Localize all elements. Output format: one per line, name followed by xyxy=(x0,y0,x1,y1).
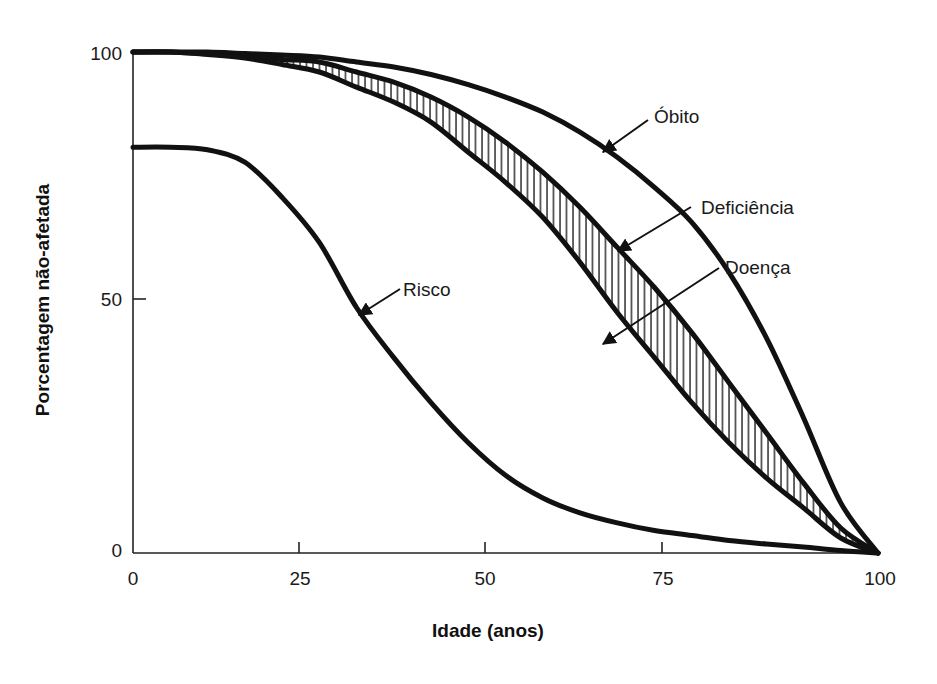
y-tick-label-50: 50 xyxy=(101,289,122,310)
y-tick-label-0: 0 xyxy=(111,540,122,561)
x-tick-label-25: 25 xyxy=(289,568,310,589)
curves xyxy=(133,52,878,553)
y-axis-title: Porcentagem não-afetada xyxy=(32,183,53,416)
label-deficiencia: Deficiência xyxy=(701,197,794,218)
x-tick-label-0: 0 xyxy=(128,568,139,589)
x-tick-label-75: 75 xyxy=(652,568,673,589)
y-tick-labels: 100 50 0 xyxy=(90,43,122,561)
x-axis-title: Idade (anos) xyxy=(432,620,544,641)
x-tick-label-50: 50 xyxy=(474,568,495,589)
x-tick-labels: 0 25 50 75 100 xyxy=(128,568,896,589)
arrow-risco-icon xyxy=(359,289,400,315)
label-doenca: Doença xyxy=(725,257,791,278)
arrow-obito-icon xyxy=(603,120,648,152)
label-obito: Óbito xyxy=(654,106,699,127)
y-tick-label-100: 100 xyxy=(90,43,122,64)
survival-curves-chart: 100 50 0 0 25 50 75 100 Idade (anos) Por… xyxy=(0,0,937,684)
arrow-deficiencia-icon xyxy=(618,207,691,251)
x-tick-label-100: 100 xyxy=(864,568,896,589)
label-risco: Risco xyxy=(403,279,451,300)
